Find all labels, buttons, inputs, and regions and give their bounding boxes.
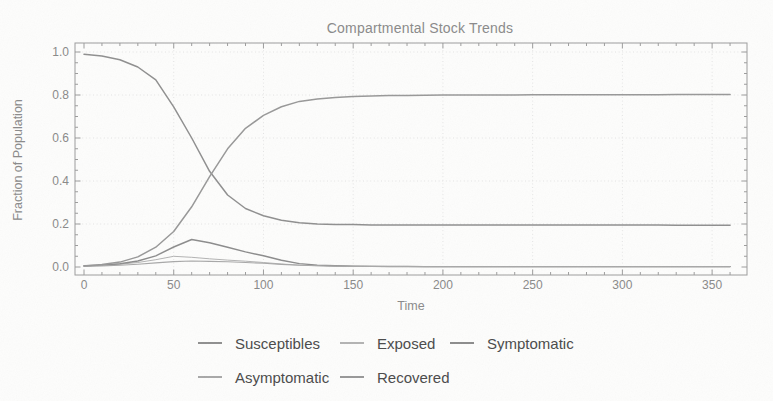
x-tick-label: 300 — [612, 278, 632, 292]
x-tick-label: 0 — [81, 278, 88, 292]
plot-area: 0501001502002503003500.00.20.40.60.81.0 … — [0, 0, 773, 316]
legend-item-symptomatic: Symptomatic — [450, 335, 574, 352]
x-tick-label: 250 — [523, 278, 543, 292]
y-tick-label: 0.6 — [52, 131, 69, 145]
x-tick-label: 350 — [702, 278, 722, 292]
y-tick-label: 0.2 — [52, 217, 69, 231]
y-tick-label: 0.4 — [52, 174, 69, 188]
y-axis-label: Fraction of Population — [11, 99, 25, 221]
legend-label-symptomatic: Symptomatic — [487, 335, 574, 352]
recovered-line-swatch-icon — [340, 376, 364, 378]
asymptomatic-line-swatch-icon — [198, 376, 222, 378]
y-tick-label: 1.0 — [52, 45, 69, 59]
chart-figure: 0501001502002503003500.00.20.40.60.81.0 … — [0, 0, 773, 401]
x-tick-label: 100 — [253, 278, 273, 292]
chart-legend: Susceptibles Exposed Symptomatic Asympto… — [198, 334, 574, 386]
chart-title: Compartmental Stock Trends — [327, 20, 514, 36]
legend-row-2: Asymptomatic Recovered — [198, 368, 574, 386]
series-line-symptomatic — [84, 240, 730, 267]
legend-label-exposed: Exposed — [377, 335, 435, 352]
exposed-line-swatch-icon — [340, 342, 364, 344]
x-tick-label: 200 — [433, 278, 453, 292]
legend-label-asymptomatic: Asymptomatic — [235, 369, 329, 386]
x-axis-label: Time — [397, 299, 424, 313]
plot-frame — [75, 43, 747, 275]
symptomatic-line-swatch-icon — [450, 342, 474, 344]
legend-item-exposed: Exposed — [340, 335, 450, 352]
y-tick-label: 0.8 — [52, 88, 69, 102]
legend-item-susceptibles: Susceptibles — [198, 335, 340, 352]
legend-row-1: Susceptibles Exposed Symptomatic — [198, 334, 574, 352]
series-line-susceptibles — [84, 54, 730, 225]
x-tick-label: 150 — [343, 278, 363, 292]
susceptibles-line-swatch-icon — [198, 342, 222, 344]
legend-label-recovered: Recovered — [377, 369, 450, 386]
plot-generated-content: 0501001502002503003500.00.20.40.60.81.0 — [52, 43, 747, 292]
legend-item-asymptomatic: Asymptomatic — [198, 369, 340, 386]
legend-item-recovered: Recovered — [340, 369, 450, 386]
x-tick-label: 50 — [167, 278, 181, 292]
y-tick-label: 0.0 — [52, 260, 69, 274]
legend-label-susceptibles: Susceptibles — [235, 335, 320, 352]
